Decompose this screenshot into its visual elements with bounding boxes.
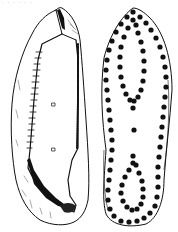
hobnail-outer [107, 206, 112, 211]
hobnail-outer [113, 29, 118, 34]
hobnail-outer [152, 203, 157, 208]
hobnail-outer [158, 134, 163, 139]
hobnail-inner-heel [119, 182, 124, 187]
hobnail-outer [163, 74, 168, 79]
hobnail-center [131, 127, 136, 132]
hobnail-outer [118, 218, 123, 223]
hobnail-outer [134, 218, 139, 223]
side-view [11, 8, 89, 225]
hobnail-inner-heel [129, 207, 134, 212]
hobnail-outer [161, 104, 166, 109]
hobnail-outer [107, 167, 112, 172]
hobnail-inner-front [138, 39, 143, 44]
hobnail-inner-heel [133, 162, 138, 167]
hobnail-outer [160, 114, 165, 119]
hobnail-outer [105, 197, 110, 202]
hobnail-inner-front [121, 34, 126, 39]
hobnail-outer [162, 94, 167, 99]
side-marker-lower [52, 148, 55, 151]
hobnail-outer [155, 174, 160, 179]
hobnail-outer [143, 20, 148, 25]
hobnail-outer [104, 57, 109, 62]
hobnail-outer [109, 147, 114, 152]
hobnail-inner-heel [140, 186, 145, 191]
hobnail-inner-front [135, 30, 140, 35]
hobnail-outer [109, 137, 114, 142]
hobnail-outer [103, 77, 108, 82]
hobnail-outer [124, 14, 129, 19]
hobnail-inner-front [141, 68, 146, 73]
hobnail-inner-heel [124, 204, 129, 209]
hobnail-inner-heel [138, 201, 143, 206]
hobnail-outer [108, 157, 113, 162]
hobnail-inner-front [118, 74, 123, 79]
hobnail-outer [108, 127, 113, 132]
side-stitch-line [77, 44, 78, 148]
hobnail-inner-heel [139, 178, 144, 183]
hobnail-inner-front [117, 64, 122, 69]
hobnail-inner-heel [118, 190, 123, 195]
hobnail-outer [104, 87, 109, 92]
hobnail-outer [155, 184, 160, 189]
hobnail-outer [153, 35, 158, 40]
hobnail-outer [156, 154, 161, 159]
hobnail-inner-front [138, 87, 143, 92]
hobnail-inner-heel [120, 198, 125, 203]
hobnail-inner-front [135, 94, 140, 99]
shoe-drawing [0, 0, 178, 232]
hobnail-outer [105, 97, 110, 102]
hobnail-outer [137, 14, 142, 19]
hobnail-inner-front [125, 25, 130, 30]
side-toe-knot [60, 203, 76, 213]
hobnail-inner-front [133, 22, 138, 27]
hobnail-inner-heel [134, 206, 139, 211]
hobnails [103, 9, 168, 224]
hobnail-inner-heel [140, 194, 145, 199]
hobnail-outer [107, 117, 112, 122]
hobnail-inner-front [141, 58, 146, 63]
hobnail-inner-heel [126, 167, 131, 172]
hobnail-inner-front [130, 17, 135, 22]
side-marker-upper [52, 103, 55, 106]
hobnail-inner-front [140, 78, 145, 83]
hobnail-outer [118, 21, 123, 26]
hobnail-outer [109, 38, 114, 43]
hobnail-inner-front [123, 91, 128, 96]
hobnail-center [130, 105, 135, 110]
hobnail-outer [111, 213, 116, 218]
hobnail-inner-heel [136, 170, 141, 175]
hobnail-outer [130, 9, 135, 14]
hobnail-outer [162, 64, 167, 69]
hobnail-outer [160, 54, 165, 59]
hobnail-outer [163, 84, 168, 89]
hobnail-outer [106, 47, 111, 52]
hobnail-outer [148, 27, 153, 32]
side-heel-shade [27, 158, 66, 208]
hobnail-outer [147, 210, 152, 215]
hobnail-outer [106, 107, 111, 112]
hobnail-inner-front [140, 48, 145, 53]
hobnail-inner-front [117, 54, 122, 59]
hobnail-outer [126, 219, 131, 224]
hobnail-inner-front [120, 83, 125, 88]
hobnail-outer [106, 177, 111, 182]
side-ribbing [27, 52, 42, 148]
hobnail-inner-front [118, 44, 123, 49]
hobnail-outer [141, 215, 146, 220]
hobnail-outer [159, 124, 164, 129]
hobnail-outer [154, 194, 159, 199]
hobnail-outer [157, 44, 162, 49]
hobnail-inner-heel [122, 174, 127, 179]
hobnail-outer [105, 187, 110, 192]
hobnail-outer [103, 67, 108, 72]
hobnail-outer [157, 144, 162, 149]
hobnail-outer [155, 164, 160, 169]
sole-view [102, 8, 172, 226]
hobnail-inner-heel [130, 153, 135, 158]
hobnail-inner-front [131, 98, 136, 103]
